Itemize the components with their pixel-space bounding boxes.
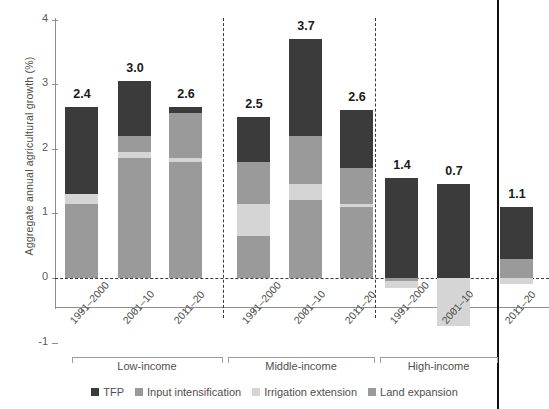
group-label-low-income: Low-income	[67, 360, 227, 372]
legend-label: Land expansion	[380, 386, 458, 398]
bar-2[interactable]	[118, 0, 151, 320]
bar-segment-irrigation-extension	[385, 281, 418, 287]
bar-segment-land-expansion	[65, 204, 98, 278]
legend-label: Input intensification	[147, 386, 241, 398]
legend-item-input-intensification[interactable]: Input intensification	[135, 386, 241, 398]
bar-segment-input-intensification	[118, 136, 151, 152]
group-label-middle-income: Middle-income	[221, 360, 381, 372]
y-tick	[52, 20, 58, 21]
legend-label: TFP	[103, 386, 124, 398]
group-rule	[380, 357, 497, 358]
page-edge-rule	[497, 0, 499, 409]
bar-segment-input-intensification	[237, 162, 270, 204]
bar-value-label: 2.5	[224, 97, 284, 111]
legend-label: Irrigation extension	[264, 386, 357, 398]
bar-segment-land-expansion	[289, 200, 322, 278]
y-tick-label: 1	[18, 205, 48, 217]
bar-4[interactable]	[237, 0, 270, 320]
y-tick	[52, 343, 58, 344]
bar-segment-irrigation-extension	[289, 184, 322, 200]
bar-segment-land-expansion	[118, 158, 151, 278]
bar-value-label: 2.4	[52, 87, 112, 101]
legend-item-irrigation-extension[interactable]: Irrigation extension	[252, 386, 357, 398]
bar-segment-tfp	[289, 39, 322, 136]
y-axis-line	[55, 18, 56, 309]
bar-value-label: 3.7	[276, 19, 336, 33]
bar-segment-tfp	[169, 107, 202, 113]
group-divider-1	[223, 18, 224, 318]
bar-1[interactable]	[65, 0, 98, 320]
bar-segment-land-expansion	[169, 162, 202, 278]
bar-value-label: 2.6	[156, 87, 216, 101]
legend-swatch-icon	[368, 388, 376, 396]
bar-segment-tfp	[500, 207, 533, 259]
y-tick-label: -1	[18, 335, 48, 347]
bar-segment-irrigation-extension	[340, 204, 373, 207]
bar-segment-irrigation-extension	[65, 194, 98, 204]
bar-segment-tfp	[385, 178, 418, 278]
bar-value-label: 1.4	[372, 158, 432, 172]
bar-value-label: 3.0	[105, 61, 165, 75]
y-tick-label: 2	[18, 141, 48, 153]
bar-segment-irrigation-extension	[237, 204, 270, 236]
bar-8[interactable]	[437, 0, 470, 320]
y-tick	[52, 84, 58, 85]
bar-9[interactable]	[500, 0, 533, 320]
bar-segment-land-expansion	[340, 207, 373, 278]
chart-legend: TFPInput intensificationIrrigation exten…	[0, 386, 549, 398]
chart-container: Aggregate annual agricultural growth (%)…	[0, 0, 549, 409]
legend-swatch-icon	[91, 388, 99, 396]
bar-segment-tfp	[65, 107, 98, 194]
bar-3[interactable]	[169, 0, 202, 320]
bar-segment-tfp	[437, 184, 470, 278]
bar-value-label: 1.1	[487, 187, 547, 201]
bar-value-label: 2.6	[327, 90, 387, 104]
y-tick-label: 0	[18, 270, 48, 282]
bar-segment-irrigation-extension	[169, 158, 202, 161]
bar-segment-tfp	[118, 81, 151, 136]
group-rule	[72, 357, 222, 358]
y-tick-label: 4	[18, 12, 48, 24]
bar-segment-input-intensification	[500, 259, 533, 272]
bar-segment-input-intensification	[289, 136, 322, 184]
bar-segment-land-expansion	[237, 236, 270, 278]
y-tick-label: 3	[18, 76, 48, 88]
legend-item-land-expansion[interactable]: Land expansion	[368, 386, 458, 398]
group-label-high-income: High-income	[359, 360, 519, 372]
legend-item-tfp[interactable]: TFP	[91, 386, 124, 398]
bar-5[interactable]	[289, 0, 322, 320]
bar-segment-input-intensification	[340, 168, 373, 204]
bar-segment-irrigation-extension	[500, 278, 533, 284]
legend-swatch-icon	[135, 388, 143, 396]
y-tick	[52, 149, 58, 150]
group-rule	[228, 357, 374, 358]
bar-value-label: 0.7	[424, 164, 484, 178]
bar-6[interactable]	[340, 0, 373, 320]
legend-swatch-icon	[252, 388, 260, 396]
bar-segment-tfp	[340, 110, 373, 168]
bar-segment-irrigation-extension	[118, 152, 151, 158]
y-tick	[52, 213, 58, 214]
bar-segment-tfp	[237, 117, 270, 162]
bar-segment-input-intensification	[169, 113, 202, 158]
y-axis-label: Aggregate annual agricultural growth (%)	[23, 31, 35, 281]
